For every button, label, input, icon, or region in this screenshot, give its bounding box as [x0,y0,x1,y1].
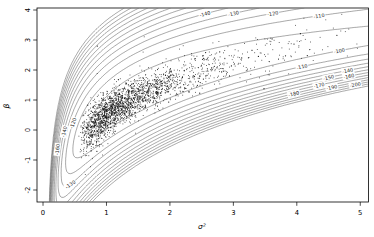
contour-label: -120 [266,9,280,18]
contour-label-text: -100 [333,47,345,55]
y-tick-label: 2 [24,68,32,72]
contour-label-text: -200 [349,80,361,88]
contour-level--200 [50,8,368,202]
contour-level--220 [49,8,368,202]
x-tick-label: 3 [231,209,235,217]
contour-label-text: -150 [322,73,334,81]
x-tick-label: 1 [104,209,108,217]
y-tick-label: 3 [24,38,32,42]
contour-label: -180 [287,89,301,98]
y-tick-label: -2 [24,187,32,194]
plot-box [37,8,369,202]
contour-label-text: -190 [326,83,338,91]
y-tick-label: -1 [24,157,32,164]
contour-label-text: -140 [199,9,211,18]
contour-label-text: -130 [227,9,239,17]
contour-label-text: -140 [60,126,68,138]
contour-label-text: -180 [287,89,299,97]
contour-label: -140 [198,9,212,19]
figure: 012345-2-101234 -110-120-130-140-100-110… [0,0,374,237]
contour-lines [49,8,368,202]
contour-label: -170 [312,81,326,90]
contour-label: -110 [312,12,326,20]
contour-label: -120 [68,116,78,130]
x-tick-label: 4 [295,209,299,217]
x-tick-label: 5 [358,209,362,217]
contour-level--210 [50,8,369,202]
contour-label-text: -160 [343,72,355,80]
plot-axes: 012345-2-101234 [24,8,368,217]
contour-label-text: -110 [296,62,308,70]
x-axis-label: σ² [198,222,206,231]
y-axis-label: β [2,103,11,108]
x-tick-label: 2 [168,209,172,217]
contour-scatter-plot: 012345-2-101234 -110-120-130-140-100-110… [0,0,374,237]
y-tick-label: 1 [24,98,32,102]
contour-label: -160 [342,72,356,81]
y-tick-label: 4 [24,8,32,12]
contour-label: -110 [295,62,309,71]
y-tick-label: 0 [24,128,32,132]
contour-label-text: -160 [54,144,61,156]
contour-label-text: -120 [267,9,279,17]
contour-labels: -110-120-130-140-100-110-140-150-160-170… [53,9,362,191]
contour-label: -130 [226,9,240,18]
contour-label: -100 [332,46,346,55]
contour-label-text: -170 [313,81,325,89]
contour-label: -140 [59,125,68,139]
x-tick-label: 0 [41,209,45,217]
